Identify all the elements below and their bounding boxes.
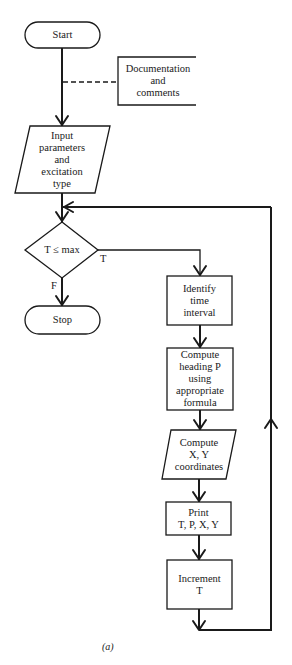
input-label: Input parameters and excitation type	[22, 127, 102, 193]
annotation-label: Documentation and comments	[120, 57, 196, 105]
input-line-1: Input	[51, 130, 73, 142]
compute-heading-line-1: Compute	[181, 349, 220, 361]
print-line-1: Print	[188, 507, 208, 519]
compute-xy-line-3: coordinates	[175, 461, 223, 473]
input-line-3: and	[54, 154, 69, 166]
annotation-line-1: Documentation	[126, 63, 191, 75]
compute-xy-label: Compute X, Y coordinates	[164, 430, 234, 479]
compute-heading-line-2: heading P	[179, 361, 221, 373]
compute-heading-line-3: using	[189, 373, 212, 385]
true-branch-label: T	[100, 253, 106, 264]
annotation-line-2: and	[150, 75, 165, 87]
decision-text: T ≤ max	[44, 244, 79, 256]
increment-line-2: T	[196, 585, 202, 597]
compute-xy-line-1: Compute	[180, 437, 219, 449]
compute-xy-line-2: X, Y	[189, 449, 209, 461]
increment-label: Increment T	[167, 560, 232, 609]
annotation-line-3: comments	[136, 87, 179, 99]
increment-line-1: Increment	[178, 573, 221, 585]
start-label: Start	[25, 22, 100, 48]
identify-line-1: Identify	[183, 283, 216, 295]
identify-line-3: interval	[183, 307, 215, 319]
compute-heading-line-4: appropriate	[176, 385, 224, 397]
stop-label: Stop	[25, 306, 100, 334]
connector-decision-true-to-identify	[98, 250, 200, 276]
identify-line-2: time	[190, 295, 209, 307]
input-line-4: excitation	[41, 166, 82, 178]
compute-heading-label: Compute heading P using appropriate form…	[167, 348, 233, 410]
stop-text: Stop	[53, 314, 72, 326]
figure-caption: (a)	[102, 641, 114, 652]
identify-label: Identify time interval	[167, 276, 232, 325]
input-line-2: parameters	[39, 142, 85, 154]
compute-heading-line-5: formula	[183, 397, 216, 409]
input-line-5: type	[53, 178, 71, 190]
false-branch-label: F	[51, 280, 57, 291]
print-line-2: T, P, X, Y	[178, 519, 219, 531]
decision-label: T ≤ max	[25, 242, 99, 258]
start-text: Start	[53, 29, 73, 41]
print-label: Print T, P, X, Y	[166, 502, 231, 535]
